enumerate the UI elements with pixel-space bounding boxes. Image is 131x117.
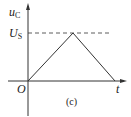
- y-axis-arrow-icon: [26, 3, 30, 10]
- caption: (c): [66, 97, 77, 107]
- origin-label: O: [17, 83, 26, 95]
- x-axis-arrow-icon: [120, 79, 127, 83]
- y-axis-label: uC: [9, 6, 20, 20]
- x-axis-label: t: [116, 83, 119, 95]
- uc-curve: [28, 33, 115, 81]
- reference-label: US: [9, 27, 22, 41]
